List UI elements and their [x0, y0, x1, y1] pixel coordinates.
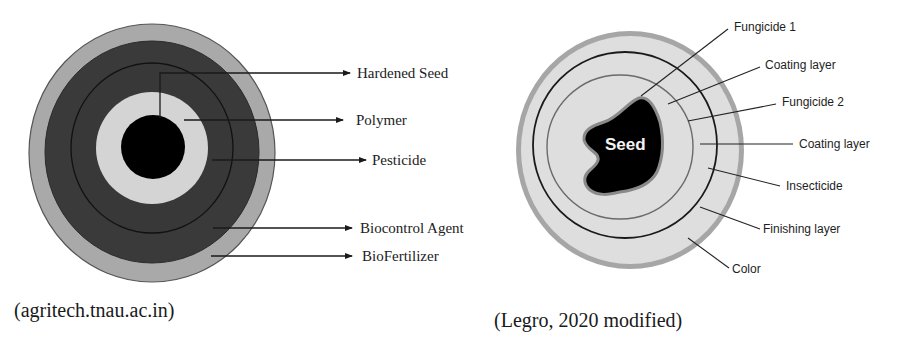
label-pesticide: Pesticide — [372, 153, 426, 168]
label-fungicide-2: Fungicide 2 — [782, 96, 844, 108]
label-coating-layer-1: Coating layer — [765, 59, 836, 71]
hardened-seed-core — [121, 115, 185, 179]
label-finishing-layer: Finishing layer — [763, 223, 840, 235]
caption-right-source: (Legro, 2020 modified) — [494, 310, 682, 330]
diagram-graphics — [0, 0, 903, 347]
label-fungicide-1: Fungicide 1 — [734, 21, 796, 33]
label-hardened-seed: Hardened Seed — [357, 66, 448, 81]
figure: Hardened Seed Polymer Pesticide Biocontr… — [0, 0, 903, 347]
color-leader — [688, 238, 729, 268]
seed-label: Seed — [605, 136, 646, 153]
right-seed-diagram — [516, 29, 793, 269]
label-insecticide: Insecticide — [786, 180, 843, 192]
label-biocontrol-agent: Biocontrol Agent — [360, 221, 464, 236]
label-coating-layer-2: Coating layer — [799, 138, 870, 150]
left-seed-diagram — [29, 24, 366, 282]
label-biofertilizer: BioFertilizer — [362, 249, 439, 264]
label-color: Color — [732, 263, 761, 275]
caption-left-source: (agritech.tnau.ac.in) — [14, 300, 174, 320]
label-polymer: Polymer — [356, 113, 407, 128]
